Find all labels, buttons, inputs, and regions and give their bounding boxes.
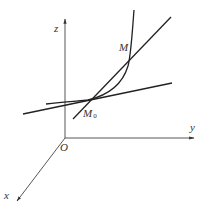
tangent-line — [23, 83, 172, 114]
point-m0-subscript: 0 — [93, 112, 97, 120]
point-m0-main: M — [82, 107, 93, 119]
x-axis — [17, 138, 65, 201]
secant-line — [73, 17, 171, 119]
z-axis-label: z — [53, 22, 59, 34]
y-axis-label: y — [189, 121, 195, 133]
x-axis-label: x — [3, 189, 9, 201]
secant-tangent-diagram: z y x O M M0 — [0, 0, 200, 212]
space-curve — [46, 10, 134, 104]
point-m0-label: M0 — [82, 107, 97, 120]
origin-label: O — [60, 141, 68, 153]
point-m-label: M — [118, 41, 129, 53]
